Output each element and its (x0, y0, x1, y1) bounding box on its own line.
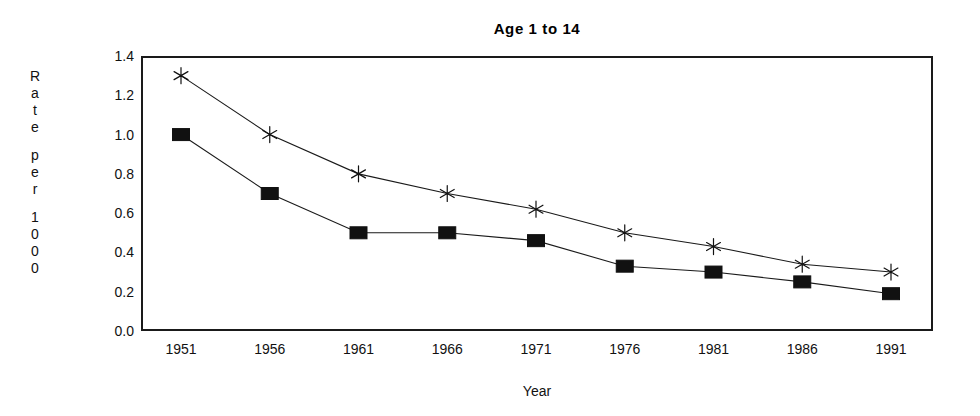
x-axis-tick-label: 1951 (151, 340, 211, 358)
y-axis-title-char: 0 (18, 243, 52, 260)
x-axis-tick-label: 1981 (684, 340, 744, 358)
x-axis-tick-label: 1976 (595, 340, 655, 358)
y-axis-title-char: 0 (18, 226, 52, 243)
data-point-marker-square (794, 276, 811, 288)
data-point-marker-star (263, 127, 277, 143)
y-axis-title-spacer (18, 198, 52, 209)
y-axis-tick-label: 0.6 (100, 206, 134, 220)
y-axis-tick-label: 0.0 (100, 324, 134, 338)
x-axis-tick-labels: 195119561961196619711976198119861991 (141, 340, 933, 362)
data-point-marker-star (618, 225, 632, 241)
x-axis-tick-label: 1971 (506, 340, 566, 358)
data-point-marker-star (440, 186, 454, 202)
x-axis-tick-label: 1991 (861, 340, 921, 358)
chart-series (174, 68, 898, 280)
y-axis-title-spacer (18, 136, 52, 147)
y-axis-title-char: e (18, 164, 52, 181)
y-axis-title-char: a (18, 85, 52, 102)
y-axis-tick-labels: 1.41.21.00.80.60.40.20.0 (96, 56, 134, 331)
y-axis-tick-label: 1.2 (100, 88, 134, 102)
y-axis-tick-label: 1.0 (100, 128, 134, 142)
y-axis-title-char: e (18, 119, 52, 136)
data-point-marker-square (350, 227, 367, 239)
data-point-marker-square (173, 129, 190, 141)
y-axis-tick-label: 1.4 (100, 49, 134, 63)
data-point-marker-square (528, 235, 545, 247)
data-point-marker-star (529, 201, 543, 217)
chart-title: Age 1 to 14 (141, 20, 933, 37)
y-axis-title: Rateper1000 (18, 68, 52, 277)
x-axis-tick-label: 1961 (329, 340, 389, 358)
data-point-marker-star (352, 166, 366, 182)
data-point-marker-square (261, 188, 278, 200)
y-axis-title-char: 0 (18, 260, 52, 277)
y-axis-title-char: p (18, 147, 52, 164)
y-axis-title-char: R (18, 68, 52, 85)
y-axis-tick-label: 0.8 (100, 167, 134, 181)
data-point-marker-square (439, 227, 456, 239)
y-axis-title-char: t (18, 102, 52, 119)
x-axis-tick-label: 1986 (772, 340, 832, 358)
data-point-marker-square (705, 266, 722, 278)
data-point-marker-square (883, 288, 900, 300)
x-axis-tick-label: 1956 (240, 340, 300, 358)
y-axis-tick-label: 0.4 (100, 245, 134, 259)
y-axis-title-char: r (18, 181, 52, 198)
data-point-marker-square (616, 260, 633, 272)
data-point-marker-star (707, 239, 721, 255)
y-axis-title-char: 1 (18, 209, 52, 226)
x-axis-title: Year (141, 383, 933, 399)
chart-container: Age 1 to 14 Rateper1000 1.41.21.00.80.60… (0, 0, 980, 416)
y-axis-tick-label: 0.2 (100, 285, 134, 299)
x-axis-tick-label: 1966 (417, 340, 477, 358)
chart-data-layer (141, 56, 933, 331)
data-point-marker-star (174, 68, 188, 84)
